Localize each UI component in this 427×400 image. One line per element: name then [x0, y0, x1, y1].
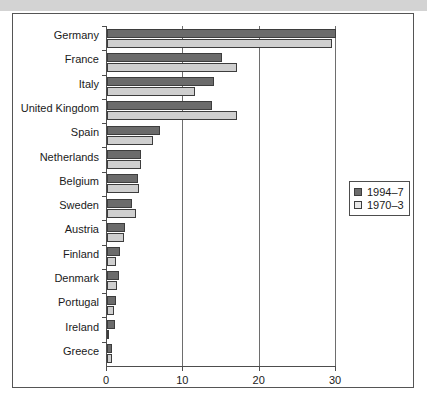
bar-spain-series-2 — [107, 136, 153, 145]
plot-area: 0102030 GermanyFranceItalyUnited Kingdom… — [106, 26, 335, 366]
legend-label: 1970–3 — [367, 199, 404, 211]
category-row: Austria — [106, 220, 335, 244]
category-label-belgium: Belgium — [59, 175, 99, 187]
category-row: Finland — [106, 245, 335, 269]
bar-belgium-series-1 — [107, 174, 138, 183]
category-row: United Kingdom — [106, 99, 335, 123]
category-label-germany: Germany — [54, 29, 99, 41]
bar-greece-series-2 — [107, 354, 112, 363]
x-tick-mark-0 — [106, 366, 107, 371]
category-axis-line — [106, 366, 336, 367]
category-row: Greece — [106, 342, 335, 366]
bar-finland-series-1 — [107, 247, 120, 256]
bar-sweden-series-2 — [107, 209, 136, 218]
legend-swatch-icon — [354, 188, 362, 196]
category-row: Denmark — [106, 269, 335, 293]
category-label-ireland: Ireland — [65, 321, 99, 333]
bar-united-kingdom-series-2 — [107, 111, 237, 120]
bar-portugal-series-1 — [107, 296, 116, 305]
bar-denmark-series-2 — [107, 281, 117, 290]
bar-france-series-1 — [107, 53, 222, 62]
bar-netherlands-series-2 — [107, 160, 141, 169]
x-tick-label-30: 30 — [315, 374, 355, 387]
bar-ireland-series-2 — [107, 330, 109, 339]
x-tick-label-20: 20 — [239, 374, 279, 387]
category-row: Sweden — [106, 196, 335, 220]
bar-greece-series-1 — [107, 344, 112, 353]
category-row: Netherlands — [106, 147, 335, 171]
category-tick — [102, 293, 106, 294]
bar-france-series-2 — [107, 63, 237, 72]
category-label-portugal: Portugal — [58, 296, 99, 308]
legend-item: 1970–3 — [354, 198, 404, 211]
x-tick-label-0: 0 — [86, 374, 126, 387]
bar-netherlands-series-1 — [107, 150, 141, 159]
bar-denmark-series-1 — [107, 271, 119, 280]
category-row: Italy — [106, 75, 335, 99]
chart-figure-frame: 0102030 GermanyFranceItalyUnited Kingdom… — [12, 13, 414, 388]
category-row: Spain — [106, 123, 335, 147]
category-tick — [102, 99, 106, 100]
category-row: Germany — [106, 26, 335, 50]
x-tick-mark-20 — [259, 366, 260, 371]
category-row: Belgium — [106, 172, 335, 196]
category-label-netherlands: Netherlands — [40, 151, 99, 163]
x-tick-label-10: 10 — [162, 374, 202, 387]
category-label-greece: Greece — [63, 345, 99, 357]
gridline-x-30 — [335, 26, 336, 366]
category-label-sweden: Sweden — [59, 199, 99, 211]
category-label-united-kingdom: United Kingdom — [21, 102, 99, 114]
category-tick — [102, 147, 106, 148]
category-tick — [102, 269, 106, 270]
category-row: Portugal — [106, 293, 335, 317]
category-tick — [102, 342, 106, 343]
category-tick — [102, 317, 106, 318]
bar-spain-series-1 — [107, 126, 160, 135]
bar-finland-series-2 — [107, 257, 116, 266]
bar-belgium-series-2 — [107, 184, 139, 193]
category-tick — [102, 50, 106, 51]
bar-portugal-series-2 — [107, 306, 114, 315]
category-label-finland: Finland — [63, 248, 99, 260]
bar-austria-series-2 — [107, 233, 124, 242]
bar-austria-series-1 — [107, 223, 125, 232]
category-row: France — [106, 50, 335, 74]
x-tick-mark-30 — [335, 366, 336, 371]
bar-germany-series-1 — [107, 29, 336, 38]
legend-swatch-icon — [354, 201, 362, 209]
chart-legend: 1994–71970–3 — [349, 181, 410, 216]
category-tick — [102, 123, 106, 124]
category-tick — [102, 75, 106, 76]
bar-italy-series-1 — [107, 77, 214, 86]
category-label-austria: Austria — [65, 223, 99, 235]
category-tick — [102, 220, 106, 221]
bar-united-kingdom-series-1 — [107, 101, 212, 110]
category-tick — [102, 245, 106, 246]
legend-item: 1994–7 — [354, 185, 404, 198]
bar-germany-series-2 — [107, 39, 332, 48]
bar-italy-series-2 — [107, 87, 195, 96]
category-row: Ireland — [106, 317, 335, 341]
category-tick — [102, 26, 106, 27]
bar-ireland-series-1 — [107, 320, 115, 329]
category-tick — [102, 172, 106, 173]
category-tick — [102, 196, 106, 197]
bar-sweden-series-1 — [107, 199, 132, 208]
category-label-denmark: Denmark — [54, 272, 99, 284]
scan-artifact-band — [0, 0, 427, 11]
category-label-spain: Spain — [71, 126, 99, 138]
category-label-italy: Italy — [79, 78, 99, 90]
x-tick-mark-10 — [182, 366, 183, 371]
legend-label: 1994–7 — [367, 186, 404, 198]
category-label-france: France — [65, 53, 99, 65]
